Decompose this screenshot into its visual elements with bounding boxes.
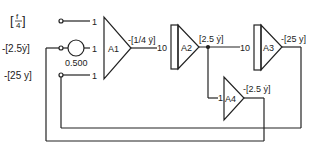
integrator-a2-bar — [171, 25, 178, 69]
a4-output-label: -[2.5 ẏ] — [243, 84, 271, 94]
input-label-ydot: -[2.5ẏ] — [2, 43, 30, 54]
potentiometer-icon — [68, 40, 84, 56]
integrator-a3-bar — [254, 25, 261, 70]
frac-num: f — [16, 12, 19, 21]
a4-input-gain: 1 — [218, 93, 223, 103]
amplifier-a2-label: A2 — [181, 43, 192, 53]
diagram-svg: [ f 4 ] -[2.5ẏ] -[25 y] 1 1 1 0.500 A1 -… — [0, 0, 316, 148]
a1-gain-1: 1 — [92, 17, 97, 27]
amplifier-a4-label: A4 — [225, 94, 236, 104]
input-terminal-y — [59, 73, 63, 77]
a1-output-label: -[1/4 ÿ] — [128, 35, 156, 45]
amplifier-a3-label: A3 — [263, 43, 274, 53]
a1-gain-2: 1 — [92, 44, 97, 54]
a3-input-gain: 10 — [240, 43, 250, 53]
input-terminal-f — [59, 19, 63, 23]
potentiometer-label: 0.500 — [65, 58, 88, 68]
input-label-y: -[25 y] — [4, 70, 32, 81]
bracket-right: ] — [22, 13, 26, 28]
a2-output-label: [2.5 ẏ] — [199, 34, 224, 44]
a3-output-label: -[25 y] — [281, 34, 306, 44]
frac-den: 4 — [16, 21, 21, 30]
a2-input-gain: 10 — [157, 43, 167, 53]
bracket-left: [ — [10, 13, 14, 28]
amplifier-a1-label: A1 — [108, 44, 119, 54]
a1-gain-3: 1 — [92, 71, 97, 81]
input-terminal-ydot — [59, 46, 63, 50]
analog-computer-diagram: [ f 4 ] -[2.5ẏ] -[25 y] 1 1 1 0.500 A1 -… — [0, 0, 316, 148]
